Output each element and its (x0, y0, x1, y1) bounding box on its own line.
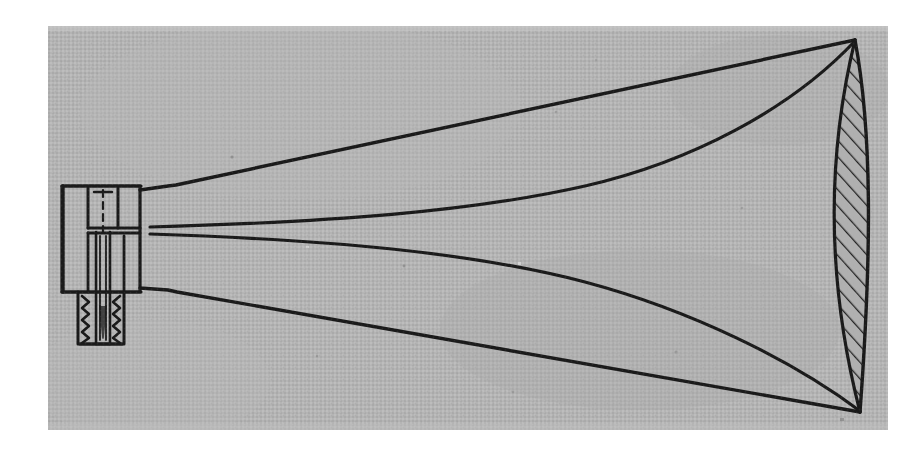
horn-cross-section-figure (0, 0, 916, 457)
figure-root (0, 0, 916, 457)
scan-vignette (48, 26, 888, 430)
